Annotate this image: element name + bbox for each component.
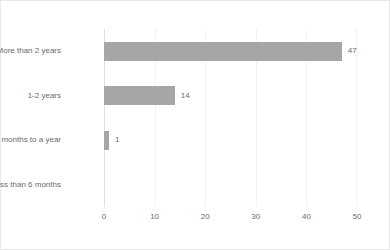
category-label: Less than 6 months	[0, 181, 61, 189]
x-tick-label: 10	[150, 213, 159, 221]
bar-row[interactable]: More than 2 years 47	[104, 29, 357, 74]
bar-value-label: 1	[115, 136, 119, 144]
category-label: 1-2 years	[0, 92, 61, 100]
plot-area: More than 2 years 47 1-2 years 14 7 mont…	[104, 29, 357, 207]
category-label: More than 2 years	[0, 47, 61, 55]
bar-7-months-to-a-year[interactable]	[104, 131, 109, 150]
x-tick-label: 20	[201, 213, 210, 221]
bar-value-label: 47	[348, 47, 357, 55]
x-tick-label: 40	[302, 213, 311, 221]
x-tick-label: 50	[353, 213, 362, 221]
bar-more-than-2-years[interactable]	[104, 42, 342, 61]
bar-row[interactable]: 1-2 years 14	[104, 74, 357, 119]
bar-row[interactable]: Less than 6 months	[104, 163, 357, 208]
x-tick-label: 0	[102, 213, 106, 221]
bar-1-2-years[interactable]	[104, 86, 175, 105]
bar-chart: More than 2 years 47 1-2 years 14 7 mont…	[0, 0, 390, 250]
bar-row[interactable]: 7 months to a year 1	[104, 118, 357, 163]
category-label: 7 months to a year	[0, 136, 61, 144]
x-axis: 0 10 20 30 40 50	[104, 207, 357, 227]
bar-value-label: 14	[181, 92, 190, 100]
x-tick-label: 30	[251, 213, 260, 221]
